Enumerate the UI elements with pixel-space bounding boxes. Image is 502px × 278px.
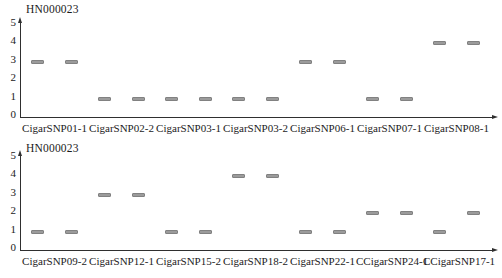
y-tick-label: 4 <box>4 167 16 179</box>
x-tick-label: CigarSNP12-1 <box>88 255 155 267</box>
y-tick-label: 3 <box>4 53 16 65</box>
bottom-panel: HN000023 012345CigarSNP09-2CigarSNP12-1C… <box>0 139 502 278</box>
genotype-marker <box>333 60 346 64</box>
x-axis-arrow-icon <box>492 115 498 119</box>
x-tick-label: CigarSNP15-2 <box>155 255 222 267</box>
genotype-marker <box>366 211 379 215</box>
genotype-marker <box>98 193 111 197</box>
genotype-marker <box>400 97 413 101</box>
x-tick-label: CigarSNP03-2 <box>222 122 289 134</box>
genotype-marker <box>299 60 312 64</box>
y-axis <box>20 156 21 250</box>
x-tick-label: CigarSNP02-2 <box>88 122 155 134</box>
genotype-marker <box>132 193 145 197</box>
top-panel: HN000023 012345CigarSNP01-1CigarSNP02-2C… <box>0 0 502 139</box>
x-tick-label: CigarSNP01-1 <box>21 122 88 134</box>
genotype-marker <box>165 230 178 234</box>
x-tick-label: CigarSNP06-1 <box>289 122 356 134</box>
genotype-marker <box>199 230 212 234</box>
bottom-plot-area: 012345CigarSNP09-2CigarSNP12-1CigarSNP15… <box>0 139 502 278</box>
genotype-marker <box>400 211 413 215</box>
genotype-marker <box>299 230 312 234</box>
genotype-marker <box>366 97 379 101</box>
y-axis-arrow-icon <box>18 150 22 156</box>
x-tick-label: CCigarSNP24-1 <box>356 255 423 267</box>
x-tick-label: CigarSNP03-1 <box>155 122 222 134</box>
genotype-marker <box>165 97 178 101</box>
genotype-figure: HN000023 012345CigarSNP01-1CigarSNP02-2C… <box>0 0 502 278</box>
x-tick-label: CigarSNP18-2 <box>222 255 289 267</box>
x-tick-label: CigarSNP22-1 <box>289 255 356 267</box>
genotype-marker <box>266 174 279 178</box>
y-tick-label: 5 <box>4 16 16 28</box>
y-tick-label: 4 <box>4 34 16 46</box>
y-tick-label: 2 <box>4 71 16 83</box>
genotype-marker <box>65 60 78 64</box>
x-axis <box>20 117 492 118</box>
x-tick-label: CCigarSNP17-1 <box>423 255 490 267</box>
genotype-marker <box>433 230 446 234</box>
genotype-marker <box>467 211 480 215</box>
y-axis-arrow-icon <box>18 17 22 23</box>
x-tick-label: CigarSNP07-1 <box>356 122 423 134</box>
genotype-marker <box>433 41 446 45</box>
x-tick-label: CigarSNP08-1 <box>423 122 490 134</box>
genotype-marker <box>232 97 245 101</box>
genotype-marker <box>467 41 480 45</box>
y-axis <box>20 23 21 117</box>
y-tick-label: 2 <box>4 204 16 216</box>
y-tick-label: 0 <box>4 241 16 253</box>
genotype-marker <box>232 174 245 178</box>
genotype-marker <box>98 97 111 101</box>
y-tick-label: 5 <box>4 149 16 161</box>
y-tick-label: 1 <box>4 90 16 102</box>
genotype-marker <box>31 230 44 234</box>
genotype-marker <box>333 230 346 234</box>
x-tick-label: CigarSNP09-2 <box>21 255 88 267</box>
genotype-marker <box>65 230 78 234</box>
y-tick-label: 1 <box>4 223 16 235</box>
genotype-marker <box>266 97 279 101</box>
genotype-marker <box>199 97 212 101</box>
x-axis <box>20 250 492 251</box>
genotype-marker <box>31 60 44 64</box>
x-axis-arrow-icon <box>492 248 498 252</box>
genotype-marker <box>132 97 145 101</box>
top-plot-area: 012345CigarSNP01-1CigarSNP02-2CigarSNP03… <box>0 0 502 139</box>
y-tick-label: 0 <box>4 108 16 120</box>
y-tick-label: 3 <box>4 186 16 198</box>
